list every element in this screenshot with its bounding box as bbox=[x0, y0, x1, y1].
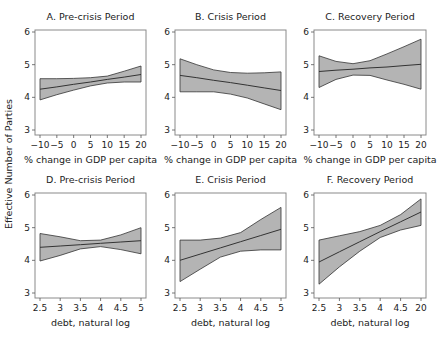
y-tick-label: 3 bbox=[164, 288, 170, 298]
y-tick-label: 5 bbox=[164, 60, 170, 70]
y-tick-label: 5 bbox=[24, 223, 30, 233]
x-tick-label: 3 bbox=[337, 303, 343, 313]
x-tick-label: 3.5 bbox=[213, 303, 227, 313]
x-tick-label: −10 bbox=[31, 140, 50, 150]
panel-c: C. Recovery Period3456−10−505101520% cha… bbox=[303, 11, 436, 165]
x-tick-label: −5 bbox=[50, 140, 63, 150]
x-tick-label: 3.5 bbox=[73, 303, 87, 313]
y-tick-label: 4 bbox=[24, 255, 30, 265]
panel-title: C. Recovery Period bbox=[325, 11, 414, 22]
x-tick-label: 20 bbox=[275, 140, 287, 150]
x-axis-label: debt, natural log bbox=[191, 317, 270, 328]
panel-e: E. Crisis Period34562.533.544.55debt, na… bbox=[164, 174, 286, 328]
y-tick-label: 3 bbox=[164, 125, 170, 135]
x-tick-label: 5 bbox=[88, 140, 94, 150]
y-tick-label: 5 bbox=[303, 60, 309, 70]
x-tick-label: 5 bbox=[228, 140, 234, 150]
panel-title: D. Pre-crisis Period bbox=[46, 174, 135, 185]
y-axis-label: Effective Number of Parties bbox=[3, 99, 14, 229]
y-tick-label: 4 bbox=[24, 92, 30, 102]
x-axis-label: % change in GDP per capita bbox=[24, 154, 157, 165]
x-axis-label: debt, natural log bbox=[330, 317, 409, 328]
panel-f: F. Recovery Period34562.533.544.520debt,… bbox=[303, 174, 427, 328]
y-tick-label: 6 bbox=[164, 27, 170, 37]
x-tick-label: 4.5 bbox=[254, 303, 268, 313]
x-tick-label: 4 bbox=[238, 303, 244, 313]
y-tick-label: 6 bbox=[24, 190, 30, 200]
y-tick-label: 6 bbox=[303, 190, 309, 200]
y-tick-label: 4 bbox=[303, 92, 309, 102]
x-tick-label: 4.5 bbox=[114, 303, 128, 313]
x-tick-label: 15 bbox=[398, 140, 409, 150]
x-tick-label: 3.5 bbox=[353, 303, 367, 313]
y-tick-label: 3 bbox=[303, 288, 309, 298]
x-tick-label: 5 bbox=[138, 303, 144, 313]
x-tick-label: 20 bbox=[135, 140, 147, 150]
x-tick-label: 5 bbox=[367, 140, 373, 150]
y-tick-label: 3 bbox=[24, 288, 30, 298]
y-tick-label: 5 bbox=[24, 60, 30, 70]
x-tick-label: 15 bbox=[258, 140, 269, 150]
x-tick-label: 20 bbox=[415, 303, 427, 313]
x-tick-label: 20 bbox=[415, 140, 427, 150]
y-tick-label: 4 bbox=[164, 92, 170, 102]
x-tick-label: −10 bbox=[310, 140, 329, 150]
x-tick-label: 10 bbox=[102, 140, 114, 150]
x-tick-label: −5 bbox=[190, 140, 203, 150]
x-axis-label: debt, natural log bbox=[51, 317, 130, 328]
y-tick-label: 6 bbox=[303, 27, 309, 37]
panel-d: D. Pre-crisis Period34562.533.544.55debt… bbox=[24, 174, 146, 328]
x-axis-label: % change in GDP per capita bbox=[164, 154, 297, 165]
y-tick-label: 5 bbox=[164, 223, 170, 233]
y-tick-label: 3 bbox=[24, 125, 30, 135]
figure-canvas: Effective Number of Parties A. Pre-crisi… bbox=[0, 0, 439, 340]
x-tick-label: 10 bbox=[381, 140, 393, 150]
y-tick-label: 4 bbox=[303, 255, 309, 265]
x-tick-label: 0 bbox=[211, 140, 217, 150]
x-tick-label: 10 bbox=[242, 140, 254, 150]
x-axis-label: % change in GDP per capita bbox=[303, 154, 436, 165]
y-tick-label: 5 bbox=[303, 223, 309, 233]
x-tick-label: 15 bbox=[118, 140, 129, 150]
panel-title: F. Recovery Period bbox=[327, 174, 414, 185]
x-tick-label: 5 bbox=[278, 303, 284, 313]
x-tick-label: 4.5 bbox=[393, 303, 407, 313]
panel-title: B. Crisis Period bbox=[195, 11, 266, 22]
x-tick-label: −5 bbox=[329, 140, 342, 150]
x-tick-label: 4 bbox=[98, 303, 104, 313]
x-tick-label: 2.5 bbox=[33, 303, 47, 313]
y-tick-label: 4 bbox=[164, 255, 170, 265]
x-tick-label: 4 bbox=[377, 303, 383, 313]
panels-grid: A. Pre-crisis Period3456−10−505101520% c… bbox=[24, 11, 437, 328]
x-tick-label: −10 bbox=[171, 140, 190, 150]
y-tick-label: 6 bbox=[164, 190, 170, 200]
x-tick-label: 0 bbox=[71, 140, 77, 150]
panel-title: E. Crisis Period bbox=[195, 174, 265, 185]
x-tick-label: 3 bbox=[57, 303, 63, 313]
y-tick-label: 6 bbox=[24, 27, 30, 37]
panel-b: B. Crisis Period3456−10−505101520% chang… bbox=[164, 11, 297, 165]
panel-title: A. Pre-crisis Period bbox=[47, 11, 135, 22]
x-tick-label: 2.5 bbox=[173, 303, 187, 313]
y-tick-label: 3 bbox=[303, 125, 309, 135]
x-tick-label: 0 bbox=[350, 140, 356, 150]
x-tick-label: 2.5 bbox=[312, 303, 326, 313]
panel-a: A. Pre-crisis Period3456−10−505101520% c… bbox=[24, 11, 157, 165]
x-tick-label: 3 bbox=[197, 303, 203, 313]
